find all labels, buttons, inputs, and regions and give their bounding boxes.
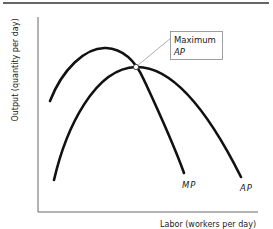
ap-label: AP [239, 183, 253, 193]
y-axis-label: Output (quantity per day) [11, 18, 20, 121]
callout-leader [137, 38, 171, 66]
ap-curve [54, 67, 241, 180]
x-axis-label: Labor (workers per day) [160, 220, 256, 229]
callout-line2: AP [173, 47, 186, 57]
mp-label: MP [182, 180, 196, 190]
callout-line1: Maximum [174, 35, 216, 45]
max-ap-point [133, 64, 138, 69]
chart: Maximum AP MP AP Labor (workers per day)… [0, 0, 273, 229]
mp-curve [50, 48, 184, 173]
